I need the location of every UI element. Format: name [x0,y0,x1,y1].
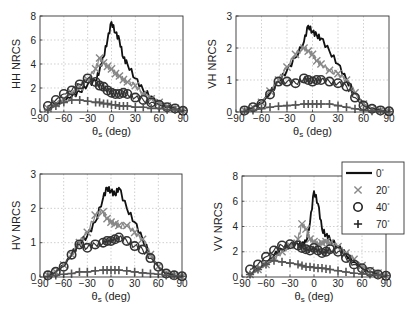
chart-canvas: −90−60−30030609002468θs (deg)HH NRCS−90−… [0,0,407,320]
y-tick-label: 2 [30,203,36,214]
marker-plus [95,98,103,106]
legend: 0°20°40°70° [342,162,404,234]
x-tick-label: 90 [177,113,189,124]
marker-cross [313,57,320,64]
y-tick-label: 6 [232,196,238,207]
y-tick-label: 8 [232,171,238,182]
y-tick-label: 3 [226,11,232,22]
x-tick-label: 60 [356,278,368,289]
x-tick-label: 90 [380,278,392,289]
marker-plus [123,267,131,275]
x-tick-label: −60 [55,278,72,289]
y-axis-label: HH NRCS [10,39,22,89]
y-tick-label: 0 [30,107,36,118]
marker-plus [76,96,84,104]
y-tick-label: 2 [30,83,36,94]
subplot-top-left: −90−60−30030609002468θs (deg)HH NRCS [10,11,189,140]
x-tick-label: 60 [358,113,370,124]
marker-plus [266,103,274,111]
y-axis-label: VH NRCS [206,39,218,89]
y-tick-label: 3 [30,169,36,180]
grid-lines [236,16,389,112]
marker-plus [350,269,358,277]
marker-plus [274,102,282,110]
x-tick-label: −60 [258,278,275,289]
y-tick-label: 2 [226,43,232,54]
y-tick-label: 0 [226,107,232,118]
marker-plus [334,102,342,110]
x-axis-label: θs (deg) [293,125,332,139]
y-tick-label: 0 [232,272,238,283]
marker-plus [138,269,146,277]
x-tick-label: 90 [176,278,188,289]
y-axis-label: HV NRCS [10,201,22,251]
marker-plus [334,267,342,275]
marker-plus [146,269,154,277]
x-tick-label: 30 [332,113,344,124]
y-tick-label: 2 [232,246,238,257]
x-tick-label: 0 [108,278,114,289]
x-tick-label: −30 [79,278,96,289]
marker-plus [294,260,302,268]
x-tick-label: 30 [129,278,141,289]
x-tick-label: 60 [154,113,166,124]
marker-plus [111,101,119,109]
x-tick-label: −30 [282,278,299,289]
x-tick-label: 30 [130,113,142,124]
y-axis-label: VV NRCS [212,202,224,251]
marker-plus [298,262,306,270]
subplot-bottom-left: −90−60−3003060900123θs (deg)HV NRCS [10,169,188,305]
x-tick-label: −30 [279,113,296,124]
x-axis-label: θs (deg) [92,290,131,304]
marker-plus [139,103,147,111]
x-axis-label: θs (deg) [295,290,334,304]
y-tick-label: 4 [232,221,238,232]
x-tick-label: 0 [109,113,115,124]
subplot-top-right: −90−60−3003060900123θs (deg)VH NRCS [206,11,395,140]
marker-plus [278,258,286,266]
marker-plus [342,103,350,111]
marker-plus [67,269,75,277]
marker-plus [286,259,294,267]
marker-plus [326,265,334,273]
marker-plus [291,101,299,109]
nrcs-figure: −90−60−30030609002468θs (deg)HH NRCS−90−… [0,0,407,320]
y-tick-label: 6 [30,35,36,46]
marker-plus [75,268,83,276]
marker-plus [325,100,333,108]
marker-plus [91,267,99,275]
y-tick-label: 8 [30,11,36,22]
x-tick-label: 60 [153,278,165,289]
x-tick-label: −60 [55,113,72,124]
y-tick-label: 4 [30,59,36,70]
marker-plus [342,268,350,276]
x-axis-label: θs (deg) [92,125,131,139]
marker-plus [84,97,92,105]
marker-plus [123,102,131,110]
x-tick-label: 30 [332,278,344,289]
x-tick-label: −60 [253,113,270,124]
y-tick-label: 1 [226,75,232,86]
y-tick-label: 1 [30,237,36,248]
marker-plus [115,266,123,274]
marker-cross [305,48,312,55]
marker-plus [103,100,111,108]
x-tick-label: 0 [310,113,316,124]
y-tick-label: 0 [30,272,36,283]
x-tick-label: 0 [311,278,317,289]
x-tick-label: −30 [79,113,96,124]
marker-plus [283,102,291,110]
marker-plus [317,100,325,108]
x-tick-label: 90 [383,113,395,124]
